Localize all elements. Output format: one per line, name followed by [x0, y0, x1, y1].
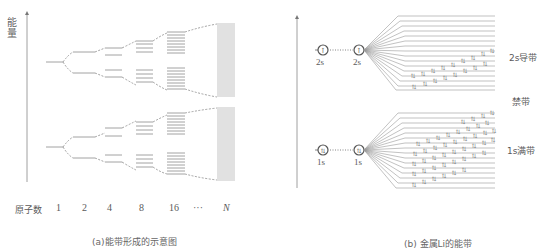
svg-text:⇅: ⇅: [430, 67, 435, 74]
svg-text:⇅: ⇅: [452, 71, 457, 78]
svg-text:⇅: ⇅: [432, 77, 437, 84]
x-tick-1: 1: [56, 202, 61, 213]
x-axis-title: 原子数: [15, 203, 42, 216]
svg-text:⇅: ⇅: [435, 134, 440, 141]
energy-axis-label-a: 能量: [7, 17, 18, 39]
svg-text:⇅: ⇅: [451, 148, 456, 155]
svg-text:↑: ↑: [320, 47, 326, 55]
svg-text:⇅: ⇅: [489, 109, 494, 116]
caption-b: (b) 金属Li的能带: [404, 237, 472, 250]
svg-text:⇅: ⇅: [441, 151, 446, 158]
atom-2s-right: ↑: [354, 45, 364, 55]
atom-1s-left: ⇅: [315, 145, 328, 155]
svg-text:⇅: ⇅: [490, 136, 495, 143]
svg-text:⇅: ⇅: [470, 115, 475, 122]
svg-text:⇅: ⇅: [445, 131, 450, 138]
svg-text:⇅: ⇅: [320, 147, 325, 154]
svg-text:⇅: ⇅: [442, 141, 447, 148]
x-tick-8: 8: [139, 202, 144, 213]
svg-text:⇅: ⇅: [431, 164, 436, 171]
svg-text:⇅: ⇅: [422, 147, 427, 154]
svg-text:⇅: ⇅: [411, 83, 416, 90]
conduction-electrons: ⇅⇅⇅ ⇅⇅⇅ ⇅⇅⇅ ⇅⇅⇅ ⇅⇅⇅ ⇅⇅: [410, 47, 494, 90]
atom-label-1s-right: 1s: [354, 157, 362, 167]
svg-text:⇅: ⇅: [471, 152, 476, 159]
svg-text:⇅: ⇅: [484, 119, 489, 126]
band-diagram-graphics: ↑ ↑ ⇅⇅⇅ ⇅⇅⇅ ⇅⇅⇅: [0, 0, 538, 250]
svg-text:⇅: ⇅: [440, 64, 445, 71]
x-tick-2: 2: [82, 202, 87, 213]
svg-text:⇅: ⇅: [462, 135, 467, 142]
svg-text:⇅: ⇅: [441, 161, 446, 168]
svg-text:⇅: ⇅: [465, 125, 470, 132]
atom-label-2s-right: 2s: [353, 57, 361, 67]
svg-text:⇅: ⇅: [411, 170, 416, 177]
caption-a: (a)能带形成的示意图: [92, 235, 177, 248]
svg-text:⇅: ⇅: [356, 147, 361, 154]
svg-text:⇅: ⇅: [452, 138, 457, 145]
svg-text:⇅: ⇅: [432, 144, 437, 151]
svg-text:⇅: ⇅: [470, 54, 475, 61]
svg-text:⇅: ⇅: [489, 47, 494, 54]
atom-1s-right: ⇅: [354, 145, 364, 155]
band-label-valence: 1s满带: [507, 144, 535, 157]
svg-text:⇅: ⇅: [411, 160, 416, 167]
svg-text:⇅: ⇅: [422, 80, 427, 87]
svg-text:⇅: ⇅: [461, 145, 466, 152]
svg-text:⇅: ⇅: [421, 157, 426, 164]
atom-label-1s-left: 1s: [317, 157, 325, 167]
svg-text:⇅: ⇅: [421, 178, 426, 185]
svg-text:⇅: ⇅: [441, 172, 446, 179]
band-label-conduction: 2s导带: [509, 51, 537, 64]
panel-a: [27, 13, 235, 182]
svg-text:⇅: ⇅: [425, 137, 430, 144]
svg-text:⇅: ⇅: [450, 61, 455, 68]
svg-text:⇅: ⇅: [461, 166, 466, 173]
conduction-band-fan: [364, 16, 495, 90]
panel-b: ↑ ↑ ⇅⇅⇅ ⇅⇅⇅ ⇅⇅⇅: [297, 16, 497, 188]
svg-text:⇅: ⇅: [482, 129, 487, 136]
svg-text:⇅: ⇅: [460, 118, 465, 125]
svg-text:⇅: ⇅: [461, 155, 466, 162]
svg-text:⇅: ⇅: [421, 167, 426, 174]
svg-text:⇅: ⇅: [455, 128, 460, 135]
svg-text:⇅: ⇅: [481, 149, 486, 156]
svg-text:⇅: ⇅: [410, 72, 415, 79]
svg-text:⇅: ⇅: [480, 50, 485, 57]
svg-text:⇅: ⇅: [451, 169, 456, 176]
svg-text:⇅: ⇅: [480, 112, 485, 119]
upper-n-band: [217, 24, 235, 96]
svg-text:⇅: ⇅: [420, 70, 425, 77]
x-tick-n: N: [223, 202, 230, 213]
svg-text:⇅: ⇅: [482, 60, 487, 67]
x-tick-16: 16: [169, 202, 179, 213]
lower-n-band: [217, 108, 235, 180]
band-label-gap: 禁带: [512, 95, 530, 108]
svg-text:⇅: ⇅: [451, 158, 456, 165]
svg-text:⇅: ⇅: [481, 139, 486, 146]
svg-text:⇅: ⇅: [431, 175, 436, 182]
x-tick-4: 4: [107, 202, 112, 213]
x-tick-ellipsis: ···: [193, 202, 203, 213]
svg-text:⇅: ⇅: [442, 74, 447, 81]
svg-text:⇅: ⇅: [472, 64, 477, 71]
svg-text:⇅: ⇅: [415, 140, 420, 147]
svg-text:⇅: ⇅: [411, 181, 416, 188]
svg-text:⇅: ⇅: [462, 67, 467, 74]
svg-text:⇅: ⇅: [431, 154, 436, 161]
atom-2s-left: ↑: [315, 45, 328, 55]
svg-text:↑: ↑: [356, 47, 362, 55]
svg-text:⇅: ⇅: [472, 132, 477, 139]
svg-text:⇅: ⇅: [412, 150, 417, 157]
svg-text:⇅: ⇅: [460, 57, 465, 64]
svg-text:⇅: ⇅: [471, 142, 476, 149]
atom-label-2s-left: 2s: [316, 57, 324, 67]
valence-electrons: ⇅⇅⇅ ⇅⇅⇅ ⇅⇅⇅ ⇅⇅⇅ ⇅⇅⇅ ⇅⇅⇅ ⇅⇅⇅ ⇅⇅⇅ ⇅⇅⇅ ⇅⇅⇅ …: [411, 109, 496, 188]
svg-text:⇅: ⇅: [491, 127, 496, 134]
upper-tree: [46, 24, 217, 97]
lower-tree: [46, 108, 217, 180]
svg-text:⇅: ⇅: [475, 122, 480, 129]
